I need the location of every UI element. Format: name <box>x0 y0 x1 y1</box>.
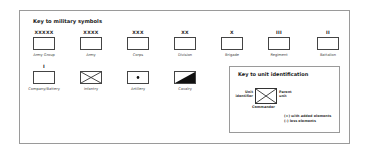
symbol-label: Brigade <box>212 53 252 57</box>
echelon-mark: III <box>259 30 299 35</box>
echelon-mark: I <box>24 64 64 69</box>
unit-box-icon <box>268 37 290 50</box>
symbol-label: Artillery <box>118 87 158 91</box>
unit-identifier-line2: identifier <box>234 94 253 98</box>
symbol-label: Division <box>165 53 205 57</box>
symbol-label: Regiment <box>259 53 299 57</box>
unit-box-icon <box>33 37 55 50</box>
unit-box-icon <box>174 37 196 50</box>
unit-id-title: Key to unit identification <box>238 71 308 77</box>
commander-label: Commander <box>252 105 275 109</box>
unit-box-icon <box>127 37 149 50</box>
unit-identifier-label: Unit identifier <box>240 90 253 98</box>
echelon-mark: II <box>308 30 348 35</box>
artillery-dot-icon <box>127 71 149 84</box>
unit-box-icon <box>317 37 339 50</box>
parent-unit-label: Parent unit <box>279 90 292 98</box>
infantry-cross-icon <box>80 71 102 84</box>
symbol-label: Army Group <box>24 53 64 57</box>
unit-identification-key: Key to unit identification Unit identifi… <box>229 66 340 133</box>
note-added-elements: (+) with added elements <box>284 114 331 118</box>
symbol-label: Army <box>71 53 111 57</box>
parent-unit-line2: unit <box>279 94 292 98</box>
echelon-mark: XX <box>165 30 205 35</box>
symbol-label: Corps <box>118 53 158 57</box>
echelon-mark: XXXXX <box>24 30 64 35</box>
note-less-elements: (-) less elements <box>284 119 316 123</box>
echelon-mark: XXXX <box>71 30 111 35</box>
symbol-label: Company/Battery <box>24 87 64 91</box>
infantry-cross-icon <box>255 88 277 104</box>
symbol-label: Infantry <box>71 87 111 91</box>
echelon-mark: X <box>212 30 252 35</box>
symbol-label: Battalion <box>308 53 348 57</box>
plain-box-icon <box>33 71 55 84</box>
symbol-label: Cavalry <box>165 87 205 91</box>
legend-title: Key to military symbols <box>33 18 102 24</box>
unit-box-icon <box>221 37 243 50</box>
echelon-mark: XXX <box>118 30 158 35</box>
unit-box-icon <box>80 37 102 50</box>
cavalry-diagonal-icon <box>174 71 196 84</box>
